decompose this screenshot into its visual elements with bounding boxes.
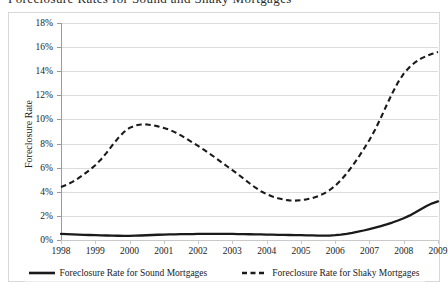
x-tick-label: 2000 xyxy=(120,246,139,256)
y-tick-mark xyxy=(57,168,61,169)
y-tick-mark xyxy=(57,47,61,48)
x-tick-mark xyxy=(438,240,439,244)
x-tick-mark xyxy=(267,240,268,244)
x-tick-mark xyxy=(61,240,62,244)
series-line-sound xyxy=(61,201,438,235)
y-tick-label: 12% xyxy=(36,90,53,100)
x-tick-label: 1999 xyxy=(86,246,105,256)
legend-item-sound[interactable]: Foreclosure Rate for Sound Mortgages xyxy=(29,268,208,278)
y-tick-label: 2% xyxy=(40,211,53,221)
x-tick-label: 2004 xyxy=(257,246,276,256)
solid-line-swatch xyxy=(29,268,55,278)
x-tick-mark xyxy=(130,240,131,244)
y-tick-mark xyxy=(57,144,61,145)
legend-label-shaky: Foreclosure Rate for Shaky Mortgages xyxy=(272,268,419,278)
y-tick-mark xyxy=(57,95,61,96)
y-axis-label: Foreclosure Rate xyxy=(23,100,34,168)
x-tick-label: 2005 xyxy=(291,246,310,256)
legend-label-sound: Foreclosure Rate for Sound Mortgages xyxy=(60,268,208,278)
cropped-title-strip: Foreclosure Rates for Sound and Shaky Mo… xyxy=(0,0,448,9)
x-tick-label: 2008 xyxy=(394,246,413,256)
y-tick-label: 16% xyxy=(36,42,53,52)
y-tick-label: 10% xyxy=(36,114,53,124)
x-tick-label: 2006 xyxy=(326,246,345,256)
y-tick-mark xyxy=(57,23,61,24)
y-tick-label: 8% xyxy=(40,139,53,149)
chart-frame: Foreclosure Rate Foreclosure Rate for So… xyxy=(8,12,440,282)
y-tick-mark xyxy=(57,71,61,72)
series-layer xyxy=(61,23,439,241)
x-tick-mark xyxy=(232,240,233,244)
y-tick-label: 6% xyxy=(40,163,53,173)
x-tick-label: 2001 xyxy=(154,246,173,256)
x-tick-label: 2003 xyxy=(223,246,242,256)
y-axis-label-wrap: Foreclosure Rate xyxy=(23,168,24,169)
x-tick-label: 2009 xyxy=(429,246,448,256)
y-tick-mark xyxy=(57,216,61,217)
legend-item-shaky[interactable]: Foreclosure Rate for Shaky Mortgages xyxy=(241,268,419,278)
x-tick-mark xyxy=(301,240,302,244)
legend-divider xyxy=(25,281,425,282)
x-tick-mark xyxy=(369,240,370,244)
x-tick-label: 1998 xyxy=(52,246,71,256)
x-tick-mark xyxy=(404,240,405,244)
x-tick-label: 2007 xyxy=(360,246,379,256)
y-tick-label: 0% xyxy=(40,235,53,245)
y-tick-label: 14% xyxy=(36,66,53,76)
x-tick-mark xyxy=(95,240,96,244)
x-tick-mark xyxy=(335,240,336,244)
y-tick-mark xyxy=(57,192,61,193)
dashed-line-swatch xyxy=(241,268,267,278)
series-line-shaky xyxy=(61,52,438,201)
chart-legend: Foreclosure Rate for Sound Mortgages For… xyxy=(9,265,439,281)
x-tick-label: 2002 xyxy=(189,246,208,256)
x-tick-mark xyxy=(198,240,199,244)
y-tick-label: 18% xyxy=(36,18,53,28)
y-tick-label: 4% xyxy=(40,187,53,197)
chart-title: Foreclosure Rates for Sound and Shaky Mo… xyxy=(8,0,292,7)
x-tick-mark xyxy=(164,240,165,244)
y-tick-mark xyxy=(57,119,61,120)
figure: Foreclosure Rates for Sound and Shaky Mo… xyxy=(0,0,448,289)
